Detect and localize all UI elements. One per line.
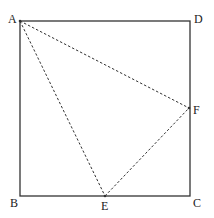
label-d: D xyxy=(194,12,203,26)
square-abcd xyxy=(20,21,190,196)
label-f: F xyxy=(193,103,200,117)
point-a-dot xyxy=(19,20,22,23)
point-f-dot xyxy=(188,107,191,110)
point-e-dot xyxy=(104,195,107,198)
square-outline xyxy=(20,21,190,196)
label-a: A xyxy=(8,12,17,26)
geometry-diagram: A D F B E C xyxy=(0,0,214,218)
label-c: C xyxy=(193,196,201,210)
label-e: E xyxy=(101,199,108,213)
label-b: B xyxy=(10,196,18,210)
segment-af xyxy=(20,21,189,108)
segment-ae xyxy=(20,21,105,196)
vertex-dots xyxy=(19,20,191,198)
triangle-aef xyxy=(20,21,189,196)
segment-ef xyxy=(105,108,189,196)
